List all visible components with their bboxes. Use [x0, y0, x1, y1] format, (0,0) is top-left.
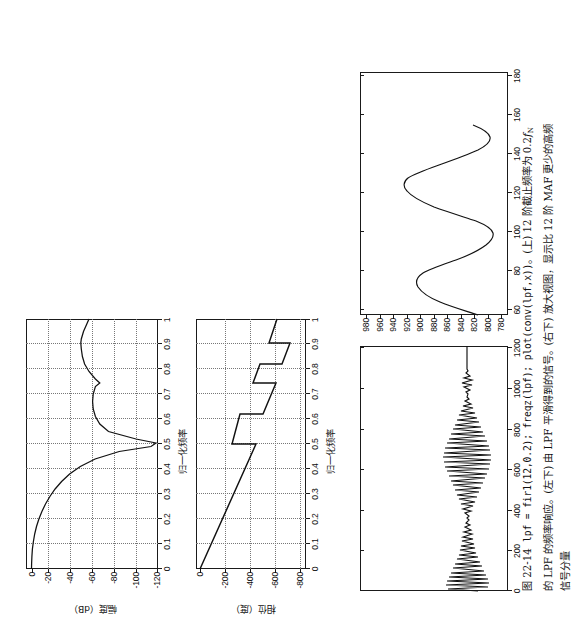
axis-label-y: -100 — [131, 572, 141, 588]
phase-yaxis-title: 相位（度） — [208, 603, 298, 617]
axis-label-y: 800 — [483, 318, 493, 332]
axis-label-y: 980 — [361, 318, 371, 332]
zoomed-signal-curve — [360, 72, 508, 315]
axis-label-x: 0.7 — [310, 388, 320, 399]
axis-label-x: 0.5 — [162, 438, 172, 449]
figure-caption-fn: f — [522, 133, 533, 137]
axis-label-x: 0.2 — [162, 513, 172, 524]
axis-label-y: 920 — [402, 318, 412, 332]
signal-panel: 0 200 400 600 800 1000 1200 — [360, 346, 508, 591]
filtered-signal-curve — [360, 346, 508, 591]
axis-label-x: 0.4 — [310, 463, 320, 474]
axis-label-y: -120 — [152, 572, 162, 588]
axis-label-y: -400 — [245, 572, 255, 588]
axis-label-x: 0 — [310, 567, 320, 572]
figure-number: 图 22-14 — [522, 548, 533, 591]
axis-label-y: -600 — [270, 572, 280, 588]
figure-caption: 图 22-14 lpf = fir1(12,0.2); freqz(lpf); … — [519, 121, 574, 591]
axis-label-y: 900 — [415, 318, 425, 332]
axis-tick-x — [360, 309, 364, 310]
axis-label-x: 0.4 — [162, 463, 172, 474]
axis-tick-x — [360, 114, 364, 115]
figure-caption-code: lpf = fir1(12,0.2); freqz(lpf); plot(con… — [522, 264, 533, 542]
axis-label-x: 0.2 — [310, 513, 320, 524]
axis-label-y: -80 — [109, 572, 119, 584]
axis-label-x: 0 — [162, 567, 172, 572]
axis-label-x: 1 — [162, 318, 172, 323]
axis-tick-x — [360, 469, 364, 470]
axis-tick-x — [360, 550, 364, 551]
axis-label-x: 0.1 — [162, 538, 172, 549]
axis-label-y: 960 — [375, 318, 385, 332]
axis-tick-x — [360, 75, 364, 76]
axis-label-y: -800 — [295, 572, 305, 588]
zoom-panel: 60 80 100 120 140 160 180 780 800 820 84… — [360, 72, 508, 315]
axis-label-x: 0.7 — [162, 388, 172, 399]
axis-label-y: -200 — [220, 572, 230, 588]
figure-caption-text-1: 。(上) 12 阶截止频率为 0.2 — [522, 137, 533, 264]
axis-label-x: 0.1 — [310, 538, 320, 549]
axis-label-x: 0.6 — [162, 413, 172, 424]
axis-label-x: 0.8 — [162, 363, 172, 374]
axis-label-x: 0.6 — [310, 413, 320, 424]
axis-label-x: 0.9 — [162, 338, 172, 349]
axis-tick-x — [360, 429, 364, 430]
axis-tick-x — [360, 347, 364, 348]
axis-label-x: 180 — [512, 69, 522, 83]
magnitude-xaxis-title: 归一化频率 — [175, 429, 189, 474]
axis-label-y: -40 — [65, 572, 75, 584]
axis-label-y: 780 — [496, 318, 506, 332]
axis-label-x: 160 — [512, 108, 522, 122]
axis-tick-x — [360, 192, 364, 193]
axis-label-y: 880 — [429, 318, 439, 332]
axis-tick-x — [360, 231, 364, 232]
axis-label-y: 0 — [195, 572, 205, 577]
magnitude-yaxis-title: 幅度（dB） — [48, 603, 138, 617]
axis-label-x: 1 — [310, 318, 320, 323]
axis-tick-x — [360, 388, 364, 389]
axis-tick-x — [360, 153, 364, 154]
axis-label-x: 0.3 — [162, 488, 172, 499]
magnitude-response-curve — [26, 319, 158, 569]
phase-response-curve — [196, 319, 306, 569]
axis-tick-x — [360, 270, 364, 271]
axis-tick-x — [360, 510, 364, 511]
axis-label-y: 860 — [442, 318, 452, 332]
axis-label-y: 840 — [456, 318, 466, 332]
axis-label-y: -60 — [87, 572, 97, 584]
axis-label-y: 0 — [27, 572, 37, 577]
axis-label-y: 940 — [388, 318, 398, 332]
axis-tick-x — [360, 590, 364, 591]
phase-xaxis-title: 归一化频率 — [323, 429, 337, 474]
axis-label-y: -20 — [43, 572, 53, 584]
axis-label-x: 0.8 — [310, 363, 320, 374]
axis-label-x: 0.3 — [310, 488, 320, 499]
phase-panel: 0 0.1 0.2 0.3 0.4 0.5 0.6 0.7 0.8 0.9 1 … — [196, 319, 306, 569]
magnitude-panel: 0 0.1 0.2 0.3 0.4 0.5 0.6 0.7 0.8 0.9 1 … — [26, 319, 158, 569]
axis-label-x: 0.5 — [310, 438, 320, 449]
axis-label-x: 0.9 — [310, 338, 320, 349]
figure-caption-text-2: 的 LPF 的频率响应。(左下) 由 LPF 平滑得到的信号。(右下) 放大视图… — [543, 124, 571, 591]
figure-caption-fn-sub: N — [527, 127, 535, 133]
axis-label-y: 820 — [469, 318, 479, 332]
